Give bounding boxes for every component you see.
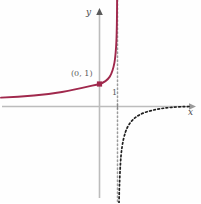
- y-axis-arrowhead: [96, 8, 103, 15]
- y-intercept-marker: [97, 81, 102, 86]
- y-axis: [96, 8, 103, 198]
- y-intercept-label: (0, 1): [71, 70, 93, 78]
- secondary-branch-curve: [119, 107, 190, 204]
- x-tick-label-1: 1: [112, 89, 117, 97]
- x-axis-label: x: [188, 108, 193, 117]
- y-axis-label: y: [86, 8, 91, 17]
- plot-canvas: [0, 0, 201, 203]
- function-graph-figure: y x 1 (0, 1): [0, 0, 201, 203]
